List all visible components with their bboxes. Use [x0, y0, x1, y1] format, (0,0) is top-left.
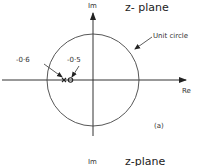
- circle-leader-arrow: [135, 37, 152, 49]
- pole-label: -0·6: [16, 56, 30, 64]
- zero-label: -0·5: [67, 56, 81, 64]
- imaginary-axis-label: Im: [88, 2, 97, 10]
- next-panel-imaginary-label: Im: [88, 158, 97, 166]
- panel-label: (a): [154, 122, 164, 130]
- unit-circle-label: Unit circle: [153, 32, 188, 40]
- pole-leader-arrow: [44, 64, 62, 77]
- diagram-title: z- plane: [125, 1, 169, 14]
- real-axis-label: Re: [182, 87, 191, 95]
- zero-leader-arrow: [72, 66, 79, 77]
- next-panel-title: z-plane: [125, 155, 165, 166]
- z-plane-diagram: Im z- plane Unit circle -0·6 -0·5 Re (a)…: [0, 0, 198, 166]
